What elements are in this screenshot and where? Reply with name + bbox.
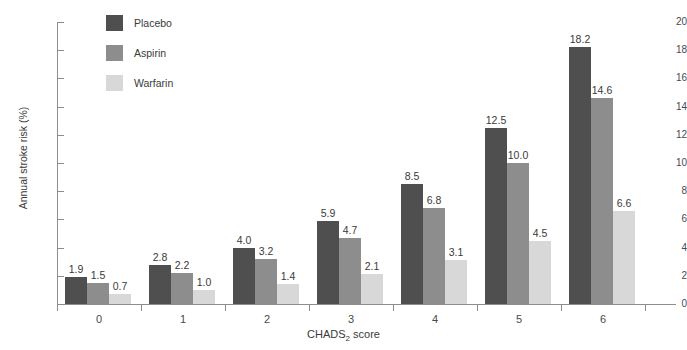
- legend-label: Aspirin: [134, 47, 166, 59]
- bar-warfarin-4: [445, 260, 467, 304]
- y-tick-mark: [57, 107, 64, 108]
- bar-value-label: 8.5: [395, 171, 429, 182]
- x-tick-label: 0: [57, 313, 141, 325]
- bar-value-label: 10.0: [501, 150, 535, 161]
- y-tick-label: 0: [639, 299, 687, 309]
- y-tick-label: 2: [639, 271, 687, 281]
- x-axis-title-suffix: score: [350, 328, 380, 340]
- x-tick-mark: [645, 304, 646, 311]
- legend-swatch-icon: [106, 45, 123, 61]
- y-tick-mark: [57, 50, 64, 51]
- y-tick-label: 8: [639, 186, 687, 196]
- bar-warfarin-1: [193, 290, 215, 304]
- y-axis-title: Annual stroke risk (%): [17, 78, 29, 238]
- y-tick-mark: [57, 191, 64, 192]
- bar-value-label: 14.6: [585, 85, 619, 96]
- bar-value-label: 4.0: [227, 235, 261, 246]
- bar-warfarin-0: [109, 294, 131, 304]
- y-tick-label: 6: [639, 214, 687, 224]
- bar-value-label: 1.0: [187, 277, 221, 288]
- y-tick-label: 14: [639, 102, 687, 112]
- legend-label: Placebo: [134, 17, 172, 29]
- y-tick-label: 20: [639, 17, 687, 27]
- bar-value-label: 6.6: [607, 198, 641, 209]
- bar-value-label: 5.9: [311, 208, 345, 219]
- bar-warfarin-5: [529, 241, 551, 304]
- bar-value-label: 3.2: [249, 246, 283, 257]
- y-tick-label: 18: [639, 45, 687, 55]
- bar-value-label: 1.5: [81, 270, 115, 281]
- y-tick-mark: [57, 22, 64, 23]
- y-tick-mark: [57, 78, 64, 79]
- bar-value-label: 4.7: [333, 225, 367, 236]
- x-tick-label: 1: [141, 313, 225, 325]
- legend-swatch-icon: [106, 75, 123, 91]
- x-tick-mark: [561, 304, 562, 311]
- bar-value-label: 12.5: [479, 115, 513, 126]
- y-tick-mark: [57, 163, 64, 164]
- bar-warfarin-6: [613, 211, 635, 304]
- bar-chart: PlaceboAspirinWarfarin 02468101214161820…: [0, 0, 687, 350]
- bar-value-label: 2.1: [355, 261, 389, 272]
- x-tick-label: 4: [393, 313, 477, 325]
- y-tick-mark: [57, 248, 64, 249]
- y-tick-label: 12: [639, 130, 687, 140]
- x-tick-label: 2: [225, 313, 309, 325]
- y-tick-label: 16: [639, 73, 687, 83]
- x-axis-title-prefix: CHADS: [307, 328, 346, 340]
- x-tick-mark: [57, 304, 58, 311]
- x-tick-mark: [141, 304, 142, 311]
- bar-value-label: 18.2: [563, 34, 597, 45]
- bar-value-label: 2.2: [165, 260, 199, 271]
- bar-warfarin-3: [361, 274, 383, 304]
- x-tick-mark: [225, 304, 226, 311]
- legend-label: Warfarin: [134, 77, 173, 89]
- bar-warfarin-2: [277, 284, 299, 304]
- x-tick-mark: [393, 304, 394, 311]
- x-tick-mark: [309, 304, 310, 311]
- bar-value-label: 3.1: [439, 247, 473, 258]
- y-tick-label: 4: [639, 243, 687, 253]
- bar-value-label: 6.8: [417, 195, 451, 206]
- y-tick-label: 10: [639, 158, 687, 168]
- bar-value-label: 1.4: [271, 271, 305, 282]
- bar-value-label: 0.7: [103, 281, 137, 292]
- x-axis-line: [57, 304, 676, 305]
- y-tick-mark: [57, 276, 64, 277]
- x-tick-label: 3: [309, 313, 393, 325]
- x-axis-title: CHADS2 score: [0, 328, 687, 343]
- legend-swatch-icon: [106, 15, 123, 31]
- bar-placebo-0: [65, 277, 87, 304]
- x-tick-label: 6: [561, 313, 645, 325]
- y-tick-mark: [57, 304, 64, 305]
- bar-value-label: 4.5: [523, 228, 557, 239]
- y-tick-mark: [57, 219, 64, 220]
- y-tick-mark: [57, 135, 64, 136]
- x-tick-label: 5: [477, 313, 561, 325]
- x-tick-mark: [477, 304, 478, 311]
